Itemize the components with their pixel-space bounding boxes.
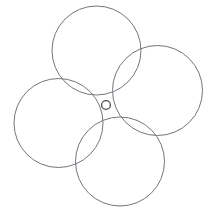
canvas-background <box>0 0 212 213</box>
rosette-diagram <box>0 0 212 213</box>
figure-canvas <box>0 0 212 213</box>
